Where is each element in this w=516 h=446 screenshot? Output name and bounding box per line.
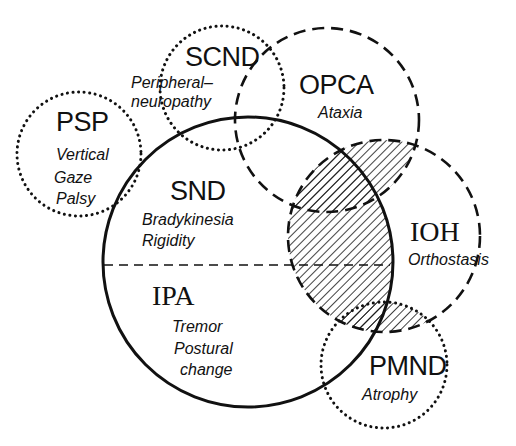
ipa-desc-line3: change: [180, 361, 233, 378]
psp-desc-line3: Palsy: [56, 190, 96, 207]
opca-desc: Ataxia: [317, 104, 363, 121]
opca-label: OPCA: [299, 70, 374, 100]
psp-desc-line1: Vertical: [56, 146, 109, 163]
venn-diagram: PSP Vertical Gaze Palsy SCND Peripheral–…: [0, 0, 516, 446]
psp-desc-line2: Gaze: [54, 169, 92, 186]
ipa-label: IPA: [152, 280, 195, 311]
ioh-label: IOH: [410, 216, 460, 247]
snd-desc-line2: Rigidity: [142, 232, 195, 249]
psp-label: PSP: [56, 107, 109, 137]
scnd-label: SCND: [185, 42, 260, 72]
pmnd-label: PMND: [369, 351, 447, 381]
snd-label: SND: [170, 176, 226, 206]
scnd-desc-line2: neuropathy: [131, 93, 212, 110]
ioh-desc: Orthostasis: [408, 251, 489, 268]
ipa-desc-line2: Postural: [174, 340, 233, 357]
pmnd-desc: Atrophy: [361, 386, 418, 403]
snd-desc-line1: Bradykinesia: [142, 211, 234, 228]
scnd-desc-line1: Peripheral–: [131, 74, 213, 91]
ipa-desc-line1: Tremor: [172, 318, 223, 335]
